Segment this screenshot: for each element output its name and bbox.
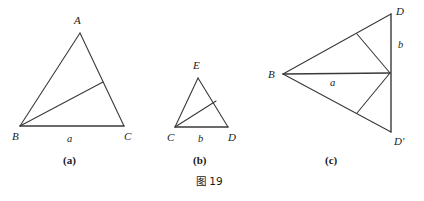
panel-b-lines — [175, 78, 228, 127]
vertex-label-b-C: C — [167, 132, 174, 143]
segment-midpoint-to-BDprime — [357, 73, 390, 113]
vertex-label-a-A: A — [74, 15, 81, 26]
vertex-label-c-D-prime: D' — [394, 136, 404, 147]
edge-label-b-side: b — [198, 134, 203, 145]
segment-midpoint-to-BD — [357, 34, 390, 73]
segment-BD — [283, 14, 391, 74]
panel-sublabel-c: (c) — [325, 155, 337, 166]
vertex-label-c-D: D — [396, 6, 404, 17]
figure-page: A B C a (a) E C D b (b) B D D' a b (c) 图… — [0, 0, 424, 201]
vertex-label-c-B: B — [268, 69, 275, 80]
edge-label-a-side: a — [67, 134, 72, 145]
segment-AC — [80, 33, 124, 126]
edge-label-c-b: b — [398, 40, 403, 51]
panel-a-lines — [20, 33, 124, 126]
segment-B-to-midpoint — [283, 73, 390, 74]
vertex-label-a-B: B — [12, 131, 19, 142]
segment-AB — [20, 33, 80, 126]
vertex-label-a-C: C — [124, 131, 131, 142]
panel-sublabel-a: (a) — [63, 155, 76, 166]
figure-caption: 图 19 — [196, 176, 223, 187]
vertex-label-b-D: D — [228, 132, 236, 143]
panel-sublabel-b: (b) — [193, 155, 206, 166]
geometry-diagram — [0, 0, 424, 201]
panel-c-lines — [283, 14, 391, 132]
vertex-label-b-E: E — [193, 60, 200, 71]
segment-BDprime — [283, 74, 391, 132]
cevian-B-to-AC — [20, 82, 103, 126]
edge-label-c-a: a — [330, 78, 335, 89]
